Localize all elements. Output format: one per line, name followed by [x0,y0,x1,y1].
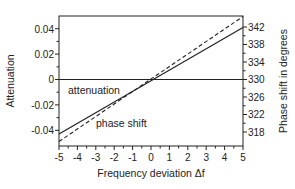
x-tick-label: 1 [167,152,173,163]
attenuation-series-line [59,27,243,134]
y-right-tick-label: 318 [248,127,265,138]
x-tick-label: 3 [203,152,209,163]
x-tick-label: 5 [240,152,246,163]
y-left-tick-label: -0.04 [31,125,54,136]
y-right-tick-label: 334 [248,57,265,68]
x-tick-label: 0 [148,152,154,163]
y-left-tick-label: 0.04 [35,24,55,35]
x-tick-label: -5 [55,152,64,163]
y-right-axis-tick-labels: 342 338 334 330 326 322 318 [248,22,265,138]
y-left-axis-title: Attenuation [4,54,16,107]
x-tick-label: -2 [110,152,119,163]
y-right-tick-label: 326 [248,92,265,103]
y-right-tick-label: 338 [248,39,265,50]
y-left-tick-label: 0 [48,74,54,85]
y-right-axis-title: Phase shift in degrees [277,29,289,133]
y-left-tick-label: 0.02 [35,49,55,60]
y-right-tick-label: 330 [248,74,265,85]
x-axis-ticks [59,146,243,150]
x-tick-label: -4 [73,152,82,163]
chart: -5 -4 -3 -2 -1 0 1 2 3 4 5 0.04 0.02 0 -… [0,0,295,189]
y-right-tick-label: 322 [248,109,265,120]
attenuation-annotation: attenuation [68,84,120,96]
y-left-axis-tick-labels: 0.04 0.02 0 -0.02 -0.04 [31,24,54,137]
y-right-tick-label: 342 [248,22,265,33]
x-axis-tick-labels: -5 -4 -3 -2 -1 0 1 2 3 4 5 [55,152,247,163]
phase-shift-annotation: phase shift [96,117,147,129]
y-right-axis-ticks [243,27,247,132]
x-axis-title: Frequency deviation Δf [97,167,204,179]
y-left-tick-label: -0.02 [31,100,54,111]
x-tick-label: -1 [128,152,137,163]
y-left-axis-ticks [55,29,59,131]
x-tick-label: 2 [185,152,191,163]
x-tick-label: -3 [91,152,100,163]
x-tick-label: 4 [222,152,228,163]
